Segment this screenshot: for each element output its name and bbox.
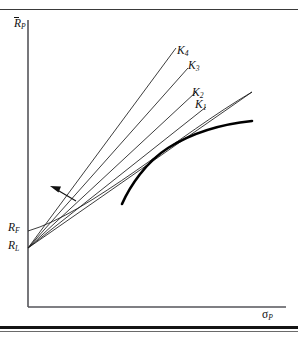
y-axis-label-subscript: P (21, 22, 26, 31)
y-tick-label-rl-subscript: L (15, 244, 19, 253)
label-k3-subscript: 3 (196, 64, 200, 73)
y-tick-label-rf: RF (8, 222, 20, 235)
page-rule-bottom-thin (0, 331, 298, 332)
label-k2-base: K (192, 86, 200, 98)
label-k4-subscript: 4 (185, 49, 189, 58)
chart-canvas (0, 0, 298, 338)
line-k3 (28, 68, 188, 248)
page-rule-bottom-thick (0, 326, 298, 329)
y-tick-label-rl-base: R (8, 239, 15, 251)
label-k4: K4 (177, 45, 188, 58)
line-k2 (28, 92, 196, 248)
x-axis-label: σP (262, 309, 273, 322)
efficient-frontier-curve (122, 121, 252, 204)
y-tick-label-rf-subscript: F (15, 226, 20, 235)
y-tick-label-rf-base: R (8, 221, 15, 233)
y-axis-label-base: R (14, 17, 21, 29)
label-k3: K3 (188, 60, 199, 73)
line-tangent (28, 92, 252, 248)
y-tick-label-rl: RL (8, 240, 19, 253)
label-k3-base: K (188, 59, 196, 71)
overbar-decoration (14, 17, 19, 18)
label-k1: K1 (195, 99, 206, 112)
y-axis-label: RP (14, 18, 26, 31)
label-k1-base: K (195, 98, 203, 110)
label-k1-subscript: 1 (203, 103, 207, 112)
figure-container: RP σP K4 K3 K2 K1 RF RL (0, 0, 298, 338)
x-axis-label-subscript: P (268, 313, 273, 322)
label-k4-base: K (177, 44, 185, 56)
